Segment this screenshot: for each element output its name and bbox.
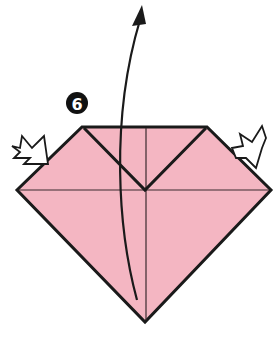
paper-shape [17, 127, 271, 322]
push-arrow-left-icon [12, 136, 48, 164]
arrow-head-icon [132, 5, 146, 26]
step-number-label: 6 [71, 95, 82, 114]
diagram-canvas: 6 [0, 0, 278, 339]
origami-diagram: 6 [0, 0, 278, 339]
